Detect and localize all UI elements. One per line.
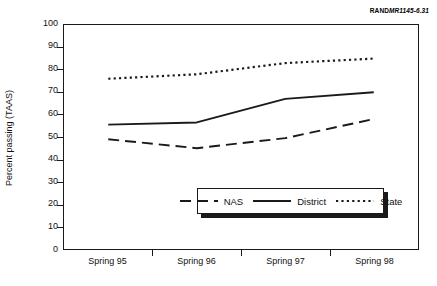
x-axis-tick-label: Spring 97 [243, 256, 329, 266]
rand-document-code: MR1145-6.31 [389, 7, 429, 14]
legend-item-state[interactable]: State [335, 196, 402, 207]
y-axis-tick-label: 100 [30, 18, 58, 28]
y-axis-tick-label: 40 [30, 153, 58, 163]
legend-swatch-solid-icon [252, 196, 292, 206]
x-axis-tick-mark [330, 250, 331, 256]
rand-source-credit: RANDMR1145-6.31 [370, 7, 429, 14]
legend-item-nas[interactable]: NAS [179, 196, 244, 207]
y-axis-tick-label: 70 [30, 85, 58, 95]
x-axis-tick-label: Spring 96 [154, 256, 240, 266]
legend-item-district[interactable]: District [252, 196, 326, 207]
chart-legend[interactable]: NASDistrictState [197, 188, 384, 214]
y-axis-title: Percent passing (TAAS) [4, 15, 18, 261]
series-line-state [108, 59, 374, 79]
y-axis-tick-label: 60 [30, 108, 58, 118]
x-axis-tick-label: Spring 95 [65, 256, 151, 266]
y-axis-tick-label: 0 [30, 244, 58, 254]
legend-swatch-dashed-icon [179, 196, 219, 206]
x-axis-tick-mark [152, 250, 153, 256]
legend-shadow-bottom [201, 214, 388, 218]
series-line-district [108, 92, 374, 124]
y-axis-tick-label: 90 [30, 40, 58, 50]
x-axis-tick-label: Spring 98 [332, 256, 418, 266]
chart-figure: RANDMR1145-6.31 Percent passing (TAAS) 0… [0, 0, 437, 286]
legend-label: NAS [224, 196, 244, 207]
y-axis-tick-label: 80 [30, 63, 58, 73]
y-axis-tick-label: 30 [30, 176, 58, 186]
x-axis-tick-mark [241, 250, 242, 256]
legend-swatch-dotted-icon [335, 196, 375, 206]
y-axis-tick-label: 20 [30, 198, 58, 208]
rand-brand-label: RAND [370, 7, 389, 14]
y-axis-tick-label: 10 [30, 221, 58, 231]
legend-label: District [297, 196, 326, 207]
y-axis-tick-label: 50 [30, 131, 58, 141]
legend-label: State [380, 196, 402, 207]
